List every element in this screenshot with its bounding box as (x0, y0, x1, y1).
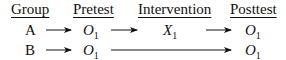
arrows-layer (0, 0, 286, 60)
